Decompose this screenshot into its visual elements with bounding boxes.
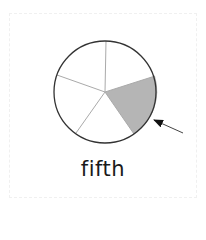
spoke-left xyxy=(57,75,105,92)
arrow-icon xyxy=(154,120,183,133)
spoke-top xyxy=(105,41,106,92)
fraction-label: fifth xyxy=(0,157,206,181)
shaded-slice xyxy=(105,76,157,134)
spoke-lower-left xyxy=(76,92,105,133)
